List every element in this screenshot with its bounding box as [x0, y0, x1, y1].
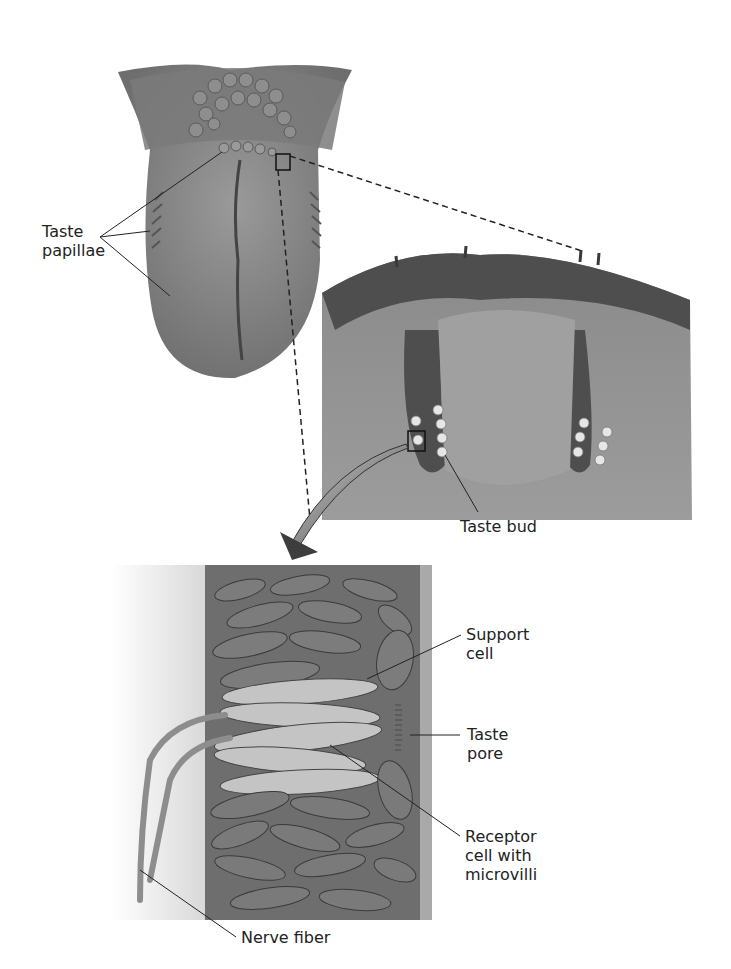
label-support-cell: Support cell	[466, 625, 529, 663]
label-taste-pore: Taste pore	[467, 725, 508, 763]
label-taste-bud: Taste bud	[460, 517, 537, 536]
taste-bud-detail-illustration	[112, 565, 432, 920]
papilla-section-illustration	[322, 246, 692, 520]
label-receptor-cell: Receptor cell with microvilli	[465, 827, 537, 884]
taste-anatomy-figure	[0, 0, 731, 969]
label-taste-papillae: Taste papillae	[42, 222, 105, 260]
tongue-illustration	[118, 64, 352, 378]
label-nerve-fiber: Nerve fiber	[241, 928, 330, 947]
